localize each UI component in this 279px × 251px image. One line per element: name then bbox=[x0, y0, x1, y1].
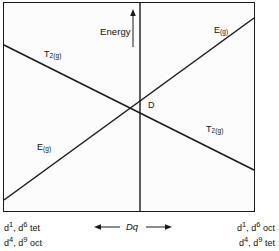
crossing-point-label: D bbox=[148, 101, 155, 110]
dq-right-arrow-icon bbox=[146, 224, 172, 229]
line-label-eg-upper-right: E(g) bbox=[214, 26, 228, 36]
line-label-subscript: 2(g) bbox=[50, 52, 62, 59]
annotation-bottom-right: d1, d6 oct d4, d9 tet bbox=[237, 219, 275, 249]
line-label-subscript: (g) bbox=[43, 145, 51, 152]
line-label-t2g-upper-left: T2(g) bbox=[44, 50, 62, 60]
annotation-bottom-left: d1, d6 tet d4, d9 oct bbox=[4, 219, 42, 249]
line-label-subscript: (g) bbox=[220, 28, 228, 35]
annotation-line: d4, d9 tet bbox=[237, 234, 275, 249]
annotation-line: d1, d6 tet bbox=[4, 219, 42, 234]
line-label-eg-lower-left: E(g) bbox=[37, 143, 51, 153]
line-label-subscript: 2(g) bbox=[212, 127, 224, 134]
crystal-field-splitting-figure: Energy T2(g) E(g) E(g) T2(g) D Dq d1, d6… bbox=[0, 0, 279, 251]
line-label-t2g-lower-right: T2(g) bbox=[206, 125, 224, 135]
dq-left-arrow-icon bbox=[94, 224, 120, 229]
annotation-line: d1, d6 oct bbox=[237, 219, 275, 234]
x-axis-label: Dq bbox=[126, 221, 138, 232]
annotation-line: d4, d9 oct bbox=[4, 234, 42, 249]
y-axis-label: Energy bbox=[100, 27, 131, 37]
